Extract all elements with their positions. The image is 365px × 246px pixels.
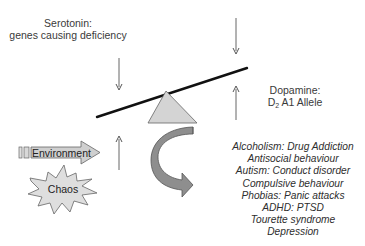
serotonin-label: Serotonin: genes causing deficiency — [0, 17, 136, 41]
chaos-label: Chaos — [48, 183, 78, 195]
environment-label: Environment — [32, 147, 91, 159]
dopamine-subtitle: D2 A1 Allele — [246, 96, 344, 112]
outcomes-list: Alcoholism: Drug Addiction Antisocial be… — [222, 141, 364, 239]
fulcrum-triangle-icon — [148, 91, 197, 123]
outcome-item: ADHD: PTSD — [222, 202, 364, 214]
arrow-down-icon — [233, 18, 239, 54]
arrow-up-icon — [233, 86, 239, 120]
outcome-item: Depression — [222, 226, 364, 238]
outcome-item: Antisocial behaviour — [222, 153, 364, 165]
outcome-item: Alcoholism: Drug Addiction — [222, 141, 364, 153]
dopamine-gene-suffix: A1 Allele — [279, 96, 322, 108]
outcome-item: Phobias: Panic attacks — [222, 190, 364, 202]
serotonin-subtitle: genes causing deficiency — [0, 29, 136, 41]
outcome-item: Tourette syndrome — [222, 214, 364, 226]
serotonin-title: Serotonin: — [0, 17, 136, 29]
arrow-down-icon — [116, 58, 122, 90]
outcome-item: Compulsive behaviour — [222, 178, 364, 190]
curved-arrow-icon — [151, 127, 193, 197]
arrow-up-icon — [116, 136, 122, 170]
dopamine-label: Dopamine: D2 A1 Allele — [246, 84, 344, 112]
outcome-item: Autism: Conduct disorder — [222, 165, 364, 177]
dopamine-title: Dopamine: — [246, 84, 344, 96]
